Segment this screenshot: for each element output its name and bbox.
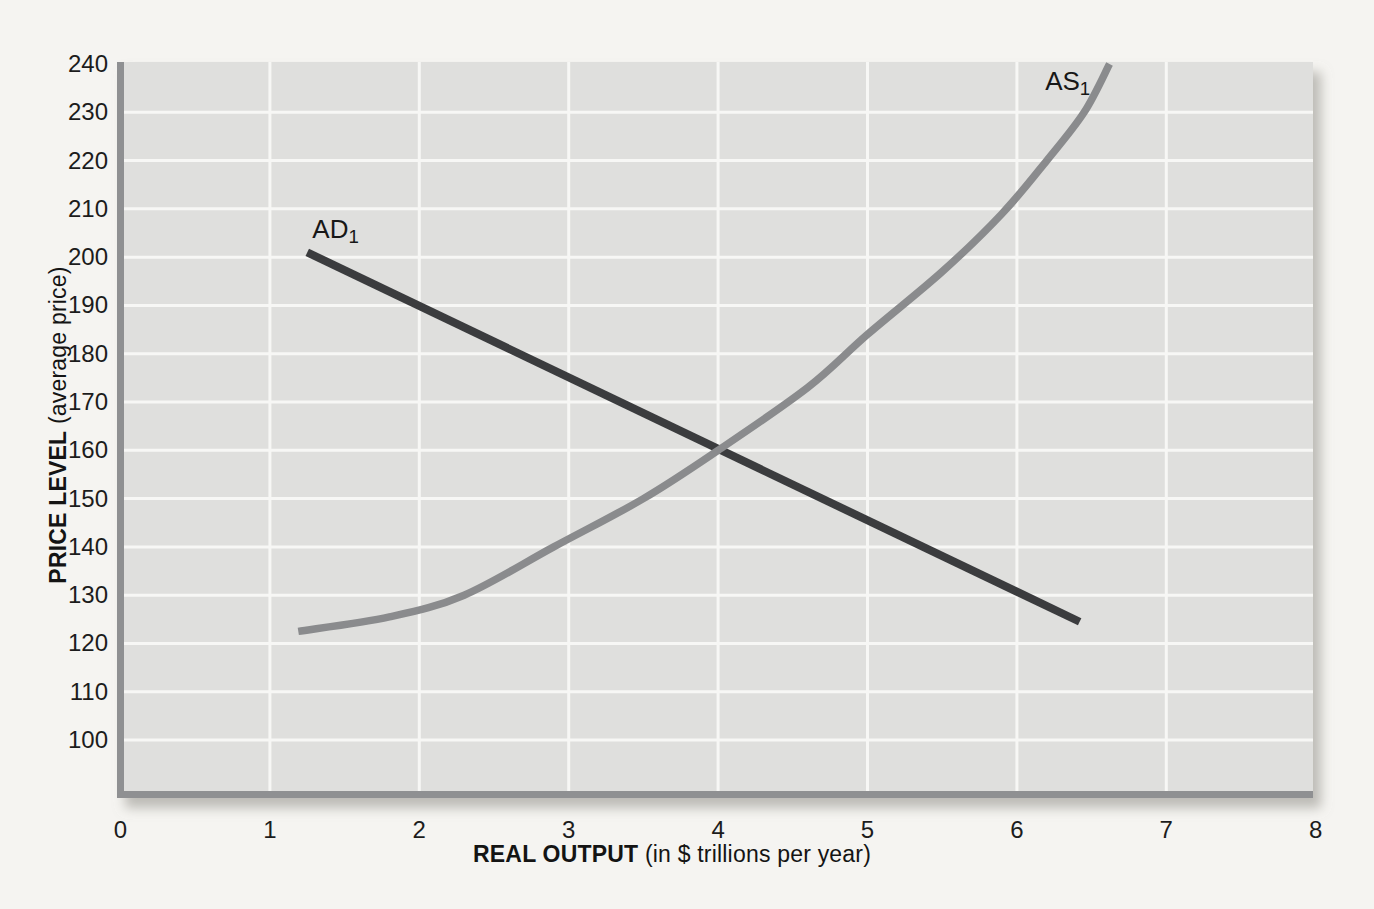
y-tick-label: 160 — [68, 436, 108, 463]
as-curve-label-subscript: 1 — [1080, 78, 1090, 99]
x-axis-title-sub: (in $ trillions per year) — [638, 841, 871, 867]
ad-curve-label: AD1 — [312, 213, 359, 247]
y-tick-label: 140 — [68, 533, 108, 560]
plot-panel — [117, 62, 1313, 798]
x-axis-title-main: REAL OUTPUT — [473, 841, 638, 867]
y-tick-label: 120 — [68, 629, 108, 656]
x-tick-label: 2 — [413, 816, 426, 843]
figure: 1001101201301401501601701801902002102202… — [0, 0, 1374, 909]
y-tick-label: 130 — [68, 581, 108, 608]
y-axis-line — [117, 62, 124, 798]
y-tick-label: 230 — [68, 98, 108, 125]
as-curve-label-text: AS — [1045, 66, 1080, 96]
y-tick-label: 150 — [68, 485, 108, 512]
x-tick-label: 3 — [562, 816, 575, 843]
y-axis-title: PRICE LEVEL (average price) — [45, 266, 72, 583]
x-axis-title: REAL OUTPUT (in $ trillions per year) — [473, 841, 871, 868]
y-tick-label: 210 — [68, 195, 108, 222]
y-tick-label: 240 — [68, 50, 108, 77]
x-tick-label: 1 — [263, 816, 276, 843]
ad-curve-label-subscript: 1 — [348, 226, 358, 247]
y-axis-title-sub: (average price) — [45, 266, 71, 430]
ad-curve-label-text: AD — [312, 213, 348, 243]
y-tick-label: 200 — [68, 243, 108, 270]
x-tick-label: 8 — [1309, 816, 1322, 843]
y-axis-title-main: PRICE LEVEL — [45, 431, 71, 584]
y-tick-label: 220 — [68, 147, 108, 174]
y-tick-label: 100 — [68, 726, 108, 753]
x-axis-line — [117, 791, 1313, 798]
chart-canvas: 1001101201301401501601701801902002102202… — [0, 0, 1374, 909]
as-curve-label: AS1 — [1045, 66, 1090, 100]
y-tick-label: 170 — [68, 388, 108, 415]
x-tick-label: 6 — [1010, 816, 1023, 843]
x-tick-label: 5 — [861, 816, 874, 843]
x-tick-label: 7 — [1160, 816, 1173, 843]
y-tick-label: 110 — [70, 678, 108, 705]
y-tick-label: 180 — [68, 340, 108, 367]
x-tick-label: 0 — [114, 816, 127, 843]
y-tick-label: 190 — [68, 291, 108, 318]
x-tick-label: 4 — [711, 816, 724, 843]
